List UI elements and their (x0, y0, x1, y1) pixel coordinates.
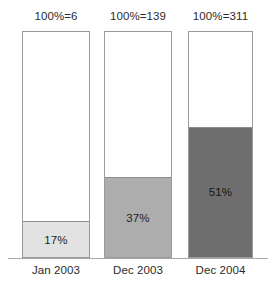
baseline-axis (8, 258, 268, 259)
bar-fill-segment: 37% (105, 177, 171, 257)
bar-jan-2003: 17% (22, 31, 90, 258)
bar-remainder-segment (23, 32, 89, 221)
bar-value-label: 51% (209, 186, 232, 198)
bar-fill-segment: 17% (23, 221, 89, 257)
column-total-annotation: 100%=6 (22, 10, 90, 22)
bar-dec-2004: 51% (188, 31, 253, 258)
bar-fill-segment: 51% (189, 127, 252, 258)
chart-column-dec-2003: 100%=139 37% Dec 2003 (104, 0, 172, 287)
chart-column-dec-2004: 100%=311 51% Dec 2004 (188, 0, 253, 287)
bar-value-label: 37% (126, 212, 149, 224)
bar-remainder-segment (105, 32, 171, 177)
bar-dec-2003: 37% (104, 31, 172, 258)
bar-value-label: 17% (44, 234, 67, 246)
category-label: Jan 2003 (14, 264, 98, 276)
stacked-bar-chart: 100%=6 17% Jan 2003 100%=139 37% Dec 200… (0, 0, 276, 287)
column-total-annotation: 100%=139 (104, 10, 172, 22)
chart-column-jan-2003: 100%=6 17% Jan 2003 (22, 0, 90, 287)
category-label: Dec 2004 (180, 264, 261, 276)
category-label: Dec 2003 (96, 264, 180, 276)
bar-remainder-segment (189, 32, 252, 127)
column-total-annotation: 100%=311 (188, 10, 253, 22)
